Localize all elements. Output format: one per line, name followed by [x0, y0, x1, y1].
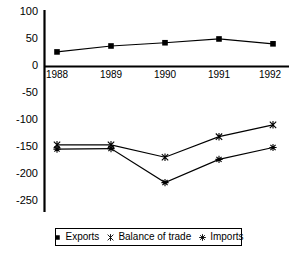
x-tick-label-1990: 1990 [135, 70, 195, 80]
y-tick-label-minus-200: -200 [2, 168, 38, 179]
chart-container: 100 50 0 -50 -100 -150 -200 -250 1988 19… [0, 0, 296, 253]
legend-marker-plus-icon [198, 233, 207, 242]
data-point [108, 43, 114, 49]
data-point [53, 146, 60, 153]
legend-marker-cross-x-icon [106, 233, 115, 242]
x-tick-label-1989: 1989 [81, 70, 141, 80]
series-line [57, 125, 273, 157]
data-point [54, 49, 60, 55]
data-point [216, 36, 222, 42]
chart-legend: Exports Balance of trade Imports [55, 228, 242, 246]
legend-marker-square-icon [53, 233, 62, 242]
legend-label-balance-of-trade: Balance of trade [118, 232, 191, 242]
y-tick-label-minus-50: -50 [2, 87, 38, 98]
series-exports [54, 36, 276, 55]
series-line [57, 148, 273, 183]
data-point [107, 145, 114, 152]
series-imports [53, 144, 276, 186]
data-point [162, 40, 168, 46]
y-tick-label-50: 50 [2, 33, 38, 44]
legend-label-exports: Exports [65, 232, 99, 242]
data-point [215, 156, 222, 163]
chart-series-group [53, 36, 276, 186]
x-tick-label-1992: 1992 [240, 70, 296, 80]
y-tick-label-100: 100 [2, 6, 38, 17]
legend-item-exports[interactable]: Exports [53, 232, 99, 242]
y-tick-label-minus-150: -150 [2, 141, 38, 152]
legend-item-imports[interactable]: Imports [198, 232, 243, 242]
data-point [269, 144, 276, 151]
y-tick-label-minus-100: -100 [2, 114, 38, 125]
data-point [161, 179, 168, 186]
y-tick-label-minus-250: -250 [2, 195, 38, 206]
chart-plot-area [0, 0, 296, 253]
legend-label-imports: Imports [210, 232, 243, 242]
data-point [270, 41, 276, 47]
x-tick-label-1988: 1988 [27, 70, 87, 80]
series-balance-of-trade [54, 121, 276, 161]
legend-item-balance-of-trade[interactable]: Balance of trade [106, 232, 191, 242]
